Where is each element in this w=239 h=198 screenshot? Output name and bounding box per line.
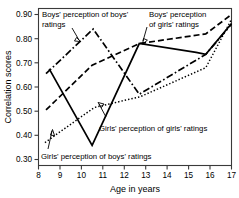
annotation-line: ratings bbox=[42, 20, 66, 29]
series-line-boys-perception-of-girls-ratings bbox=[46, 15, 231, 110]
x-tick-label: 13 bbox=[141, 171, 151, 180]
x-axis-title: Age in years bbox=[110, 184, 161, 194]
x-tick-label: 15 bbox=[184, 171, 194, 180]
leader-arrow-boys-boys bbox=[75, 38, 81, 42]
x-tick-label: 17 bbox=[227, 171, 237, 180]
chart-container: 0.90 0.80 0.70 0.60 0.50 0.40 0.30 Corre… bbox=[0, 0, 239, 198]
y-tick-label: 0.90 bbox=[16, 10, 32, 19]
x-tick-label: 11 bbox=[99, 171, 108, 180]
x-tick-label: 8 bbox=[36, 171, 41, 180]
annotation-line: Boys' perception bbox=[149, 10, 206, 19]
y-axis-title: Correlation scores bbox=[3, 50, 13, 124]
x-tick-label: 9 bbox=[58, 171, 63, 180]
x-tick-label: 12 bbox=[120, 171, 130, 180]
y-axis-tick-labels: 0.90 0.80 0.70 0.60 0.50 0.40 0.30 bbox=[16, 10, 32, 164]
annotation-line: Boys' perception of boys' bbox=[42, 10, 129, 19]
x-tick-label: 16 bbox=[205, 171, 215, 180]
x-axis-ticks bbox=[39, 166, 232, 170]
y-tick-label: 0.40 bbox=[16, 131, 32, 140]
annotation-line: of girls' ratings bbox=[149, 20, 199, 29]
x-tick-label: 10 bbox=[77, 171, 87, 180]
annotation-boys-perception-of-boys-ratings: Boys' perception of boys' ratings bbox=[42, 10, 129, 29]
y-tick-label: 0.80 bbox=[16, 35, 32, 44]
y-tick-label: 0.70 bbox=[16, 59, 32, 68]
line-chart: 0.90 0.80 0.70 0.60 0.50 0.40 0.30 Corre… bbox=[0, 0, 239, 198]
leader-arrow-girls-boys bbox=[51, 130, 55, 136]
x-tick-label: 14 bbox=[163, 171, 173, 180]
annotation-boys-perception-of-girls-ratings: Boys' perception of girls' ratings bbox=[149, 10, 206, 29]
x-axis-tick-labels: 8 9 10 11 12 13 14 15 16 17 bbox=[36, 171, 236, 180]
y-tick-label: 0.50 bbox=[16, 107, 32, 116]
annotation-girls-perception-of-girls-ratings: Girls' perception of girls' ratings bbox=[99, 124, 207, 133]
y-tick-label: 0.30 bbox=[16, 155, 32, 164]
annotation-girls-perception-of-boys-ratings: Girls' perception of boys' ratings bbox=[41, 152, 152, 161]
y-axis-ticks bbox=[35, 15, 39, 160]
y-tick-label: 0.60 bbox=[16, 83, 32, 92]
leader-line-boys-boys bbox=[72, 28, 79, 40]
